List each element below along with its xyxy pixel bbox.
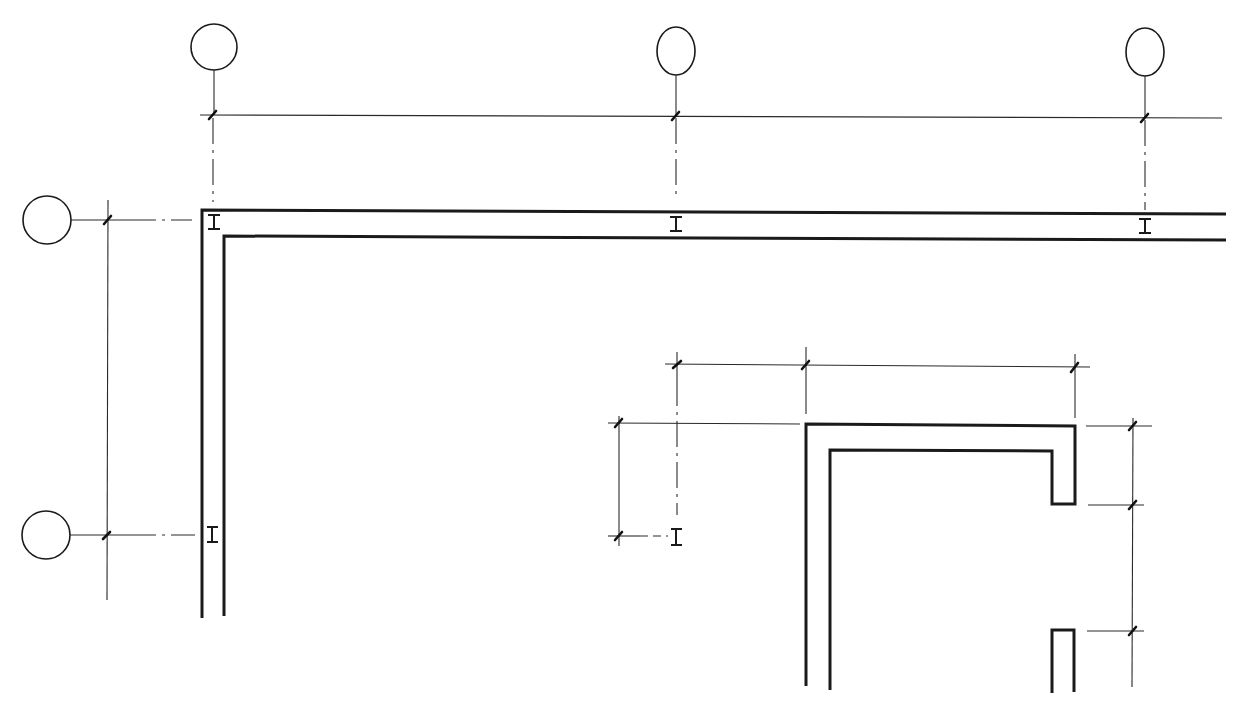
grid-bubble-top-2 <box>657 27 695 115</box>
main-wall-outer <box>202 210 1226 618</box>
column-markers <box>207 215 1151 545</box>
column-marker-icon <box>1139 219 1151 233</box>
dimension-line-detail-top <box>665 347 1090 515</box>
column-marker-icon <box>671 529 682 545</box>
dimension-line-detail-left <box>608 416 800 546</box>
room-wall <box>806 424 1075 693</box>
main-wall <box>202 210 1226 618</box>
dimension-line-detail-right <box>1086 418 1152 687</box>
dimension-line-left <box>103 200 111 600</box>
grid-bubble-top-1 <box>191 24 237 115</box>
grid-lines-vertical <box>213 118 1145 210</box>
room-wall-stub <box>1052 630 1074 693</box>
dimension-line-top <box>200 111 1222 122</box>
column-marker-icon <box>670 217 682 231</box>
room-wall-outline <box>806 424 1075 690</box>
drawing-canvas <box>0 0 1248 709</box>
column-marker-icon <box>208 215 220 229</box>
grid-bubble-top-3 <box>1126 28 1164 118</box>
column-marker-icon <box>207 527 218 542</box>
